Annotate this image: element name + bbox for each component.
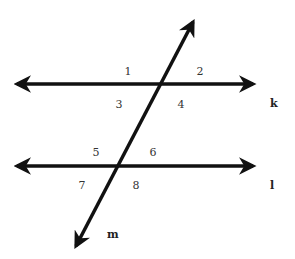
labels-group: klm12345678 [79, 65, 279, 241]
angle-label-5: 5 [93, 146, 100, 159]
line-label-l: l [270, 179, 274, 192]
angle-label-2: 2 [197, 65, 204, 78]
angle-label-7: 7 [79, 179, 86, 192]
line-m [76, 22, 193, 246]
lines-group [17, 22, 253, 246]
angle-label-8: 8 [133, 179, 140, 192]
angle-label-3: 3 [116, 98, 123, 111]
angle-label-4: 4 [178, 98, 185, 111]
line-label-k: k [270, 97, 278, 110]
angle-label-6: 6 [150, 146, 157, 159]
angle-label-1: 1 [125, 65, 132, 78]
line-label-m: m [107, 228, 119, 241]
parallel-lines-transversal-diagram: klm12345678 [0, 0, 295, 259]
diagram-canvas: klm12345678 [0, 0, 295, 259]
